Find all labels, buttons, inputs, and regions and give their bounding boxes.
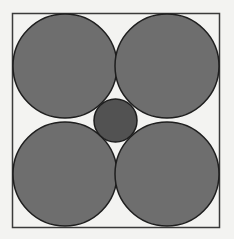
large-circle-bottom-right [115,122,219,226]
large-circle-top-left [13,14,117,118]
circles-in-square-diagram [0,0,234,239]
diagram-canvas [0,0,234,239]
small-center-circle [94,99,137,142]
large-circle-top-right [115,14,219,118]
